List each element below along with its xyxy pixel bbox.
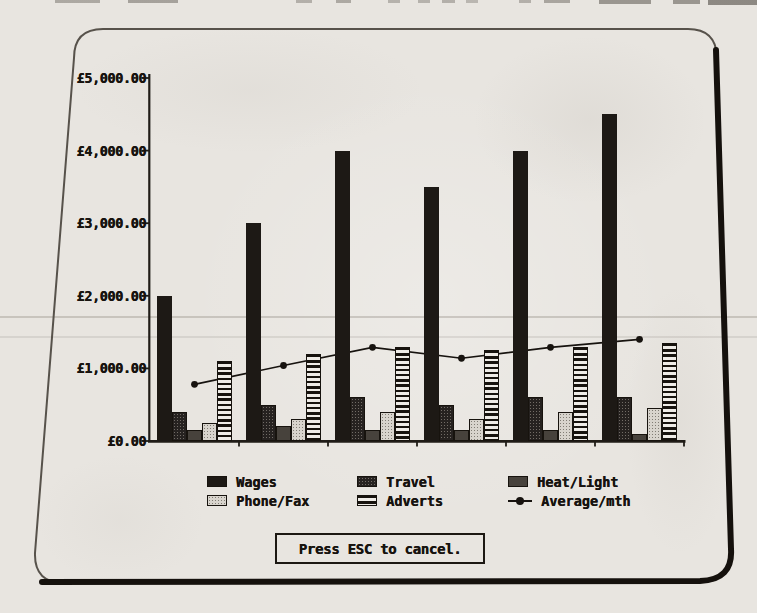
y-axis-label: £2,000.00 — [76, 288, 146, 304]
bar-wages — [335, 151, 350, 441]
average-line-marker — [547, 344, 554, 351]
bar-adverts — [395, 347, 410, 441]
legend-swatch-heat-light — [508, 476, 528, 487]
legend-label: Heat/Light — [537, 474, 618, 490]
bar-heat-light — [365, 430, 380, 441]
bar-wages — [602, 114, 617, 441]
average-line-marker — [280, 362, 287, 369]
legend-label: Travel — [386, 474, 435, 490]
bar-phone-fax — [469, 419, 484, 441]
bar-heat-light — [187, 430, 202, 441]
y-axis-label: £3,000.00 — [76, 215, 146, 231]
legend-item-heat-light: Heat/Light — [508, 474, 688, 490]
bar-phone-fax — [647, 408, 662, 441]
y-axis-label: £1,000.00 — [76, 360, 146, 376]
bar-adverts — [217, 361, 232, 441]
legend-swatch-wages — [207, 476, 227, 487]
bar-travel — [261, 405, 276, 441]
bar-heat-light — [543, 430, 558, 441]
legend-item-average-mth: Average/mth — [508, 493, 688, 509]
bar-wages — [246, 223, 261, 441]
bar-heat-light — [276, 426, 291, 441]
bar-heat-light — [632, 434, 647, 441]
legend-label: Phone/Fax — [236, 493, 309, 509]
scanned-page: £5,000.00£4,000.00£3,000.00£2,000.00£1,0… — [0, 0, 757, 613]
bar-phone-fax — [380, 412, 395, 441]
legend-item-adverts: Adverts — [357, 493, 508, 509]
esc-cancel-message: Press ESC to cancel. — [299, 541, 462, 557]
legend-label: Average/mth — [541, 493, 630, 509]
legend-label: Adverts — [386, 493, 443, 509]
average-line-marker — [636, 336, 643, 343]
bar-adverts — [484, 350, 499, 441]
bar-travel — [439, 405, 454, 441]
bar-wages — [513, 151, 528, 441]
bar-heat-light — [454, 430, 469, 441]
average-line-marker-icon — [508, 495, 532, 506]
bar-travel — [172, 412, 187, 441]
bar-phone-fax — [291, 419, 306, 441]
y-axis-label: £0.00 — [107, 433, 146, 449]
bar-travel — [350, 397, 365, 441]
bar-travel — [528, 397, 543, 441]
bar-phone-fax — [558, 412, 573, 441]
legend-item-wages: Wages — [207, 474, 357, 490]
bar-travel — [617, 397, 632, 441]
bar-adverts — [306, 354, 321, 441]
bar-wages — [424, 187, 439, 441]
legend-swatch-adverts — [357, 495, 377, 506]
bar-phone-fax — [202, 423, 217, 441]
chart-axes-and-line — [0, 0, 757, 613]
legend-item-phone-fax: Phone/Fax — [207, 493, 357, 509]
bar-adverts — [573, 347, 588, 441]
chart-legend: WagesTravelHeat/LightPhone/FaxAdvertsAve… — [207, 472, 688, 510]
legend-swatch-phone-fax — [207, 495, 227, 506]
y-axis-label: £5,000.00 — [76, 70, 146, 86]
average-line-marker — [191, 381, 198, 388]
legend-label: Wages — [236, 474, 277, 490]
y-axis-label: £4,000.00 — [76, 143, 146, 159]
average-line-marker — [458, 355, 465, 362]
legend-swatch-travel — [357, 476, 377, 487]
bar-wages — [157, 296, 172, 441]
bar-adverts — [662, 343, 677, 441]
average-line-marker — [369, 344, 376, 351]
esc-cancel-message-box: Press ESC to cancel. — [275, 533, 485, 564]
legend-item-travel: Travel — [357, 474, 508, 490]
